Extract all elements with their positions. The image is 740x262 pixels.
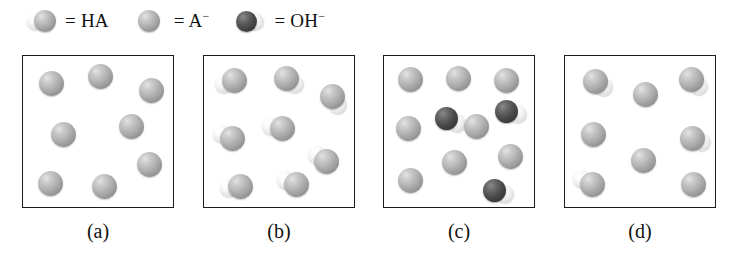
a-sphere: [498, 144, 523, 169]
o-sphere: [495, 100, 518, 123]
legend-charge-oh: −: [318, 9, 325, 23]
a-sphere: [581, 122, 606, 147]
a-sphere: [137, 152, 162, 177]
a-sphere: [580, 172, 605, 197]
o-sphere: [435, 107, 458, 130]
panel-caption-a: (a): [22, 220, 174, 243]
a-sphere: [39, 71, 64, 96]
a-sphere: [446, 66, 471, 91]
a-sphere: [88, 64, 113, 89]
legend-species-oh: OH: [290, 10, 318, 31]
oh-anion-icon: [233, 9, 267, 33]
a-sphere: [274, 66, 299, 91]
a-sphere: [583, 69, 608, 94]
a-sphere: [228, 174, 253, 199]
a-sphere: [119, 114, 144, 139]
legend-item-ha: = HA: [24, 9, 109, 33]
a-sphere: [38, 171, 63, 196]
panel-b: [203, 55, 355, 208]
panel-caption-b: (b): [203, 220, 355, 243]
panel-d: [564, 55, 716, 208]
a-sphere: [314, 149, 339, 174]
a-sphere: [442, 150, 467, 175]
legend-species-ha: HA: [81, 10, 109, 31]
panel-c: [383, 55, 535, 208]
a-sphere: [284, 172, 309, 197]
a-sphere: [320, 84, 345, 109]
a-sphere: [633, 82, 658, 107]
a-sphere: [631, 148, 656, 173]
a-sphere: [270, 116, 295, 141]
legend-species-a: A: [189, 10, 203, 31]
a-sphere: [680, 126, 705, 151]
figure-root: = HA = A− = OH− (: [0, 0, 740, 262]
legend-equals-oh: =: [274, 10, 285, 31]
a-sphere: [398, 168, 423, 193]
panel-caption-d: (d): [564, 220, 716, 243]
a-sphere: [222, 68, 247, 93]
a-anion-icon: [133, 9, 167, 33]
panel-caption-c: (c): [383, 220, 535, 243]
a-sphere: [398, 67, 423, 92]
legend-charge-a: −: [202, 9, 209, 23]
legend-item-a-anion: = A−: [133, 9, 210, 33]
panel-a: [22, 55, 174, 208]
legend-label-oh-anion: = OH−: [274, 10, 325, 32]
a-sphere: [464, 114, 489, 139]
a-sphere: [396, 116, 421, 141]
ha-molecule-icon: [24, 9, 58, 33]
legend-equals-a: =: [174, 10, 185, 31]
legend-equals-ha: =: [65, 10, 76, 31]
legend-label-ha: = HA: [65, 10, 109, 32]
a-sphere: [494, 68, 519, 93]
legend: = HA = A− = OH−: [24, 6, 349, 36]
a-sphere: [681, 172, 706, 197]
a-sphere: [139, 78, 164, 103]
a-sphere: [679, 67, 704, 92]
legend-label-a-anion: = A−: [174, 10, 210, 32]
legend-item-oh-anion: = OH−: [233, 9, 325, 33]
o-sphere: [483, 179, 506, 202]
a-sphere: [92, 174, 117, 199]
a-sphere: [220, 126, 245, 151]
a-sphere: [51, 122, 76, 147]
